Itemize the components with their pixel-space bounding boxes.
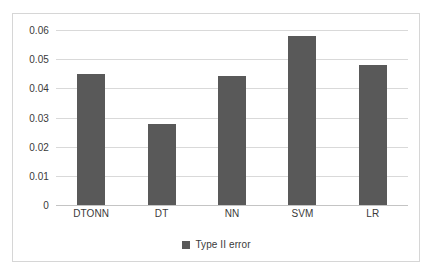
bar-dtonn: [77, 74, 105, 205]
y-tick-label: 0.04: [29, 83, 49, 94]
bar-series-type-ii-error: [56, 30, 408, 205]
x-axis-category-labels: DTONNDTNNSVMLR: [56, 208, 408, 224]
legend-label: Type II error: [195, 239, 250, 250]
x-tick-label-dtonn: DTONN: [73, 208, 109, 219]
x-tick-label-lr: LR: [366, 208, 379, 219]
legend-swatch-icon: [182, 241, 190, 249]
bar-slot: [56, 30, 126, 205]
x-tick-label-svm: SVM: [291, 208, 313, 219]
y-tick-label: 0.06: [29, 25, 49, 36]
x-tick-label-nn: NN: [225, 208, 240, 219]
bar-slot: [126, 30, 196, 205]
bar-slot: [267, 30, 337, 205]
y-tick-label: 0.05: [29, 54, 49, 65]
x-tick-label-dt: DT: [155, 208, 169, 219]
y-tick-label: 0.03: [29, 112, 49, 123]
chart-legend: Type II error: [0, 239, 433, 250]
bar-svm: [288, 36, 316, 205]
bar-dt: [148, 124, 176, 205]
legend-item-type-ii-error: Type II error: [182, 239, 250, 250]
plot-area: 00.010.020.030.040.050.06: [56, 30, 408, 205]
bar-nn: [218, 76, 246, 205]
bar-lr: [359, 65, 387, 205]
y-tick-label: 0: [43, 200, 49, 211]
y-tick-label: 0.02: [29, 141, 49, 152]
y-tick-label: 0.01: [29, 170, 49, 181]
bar-slot: [338, 30, 408, 205]
bar-chart-figure: 00.010.020.030.040.050.06 DTONNDTNNSVMLR…: [0, 0, 433, 276]
bar-slot: [197, 30, 267, 205]
gridline-0: [56, 205, 408, 206]
